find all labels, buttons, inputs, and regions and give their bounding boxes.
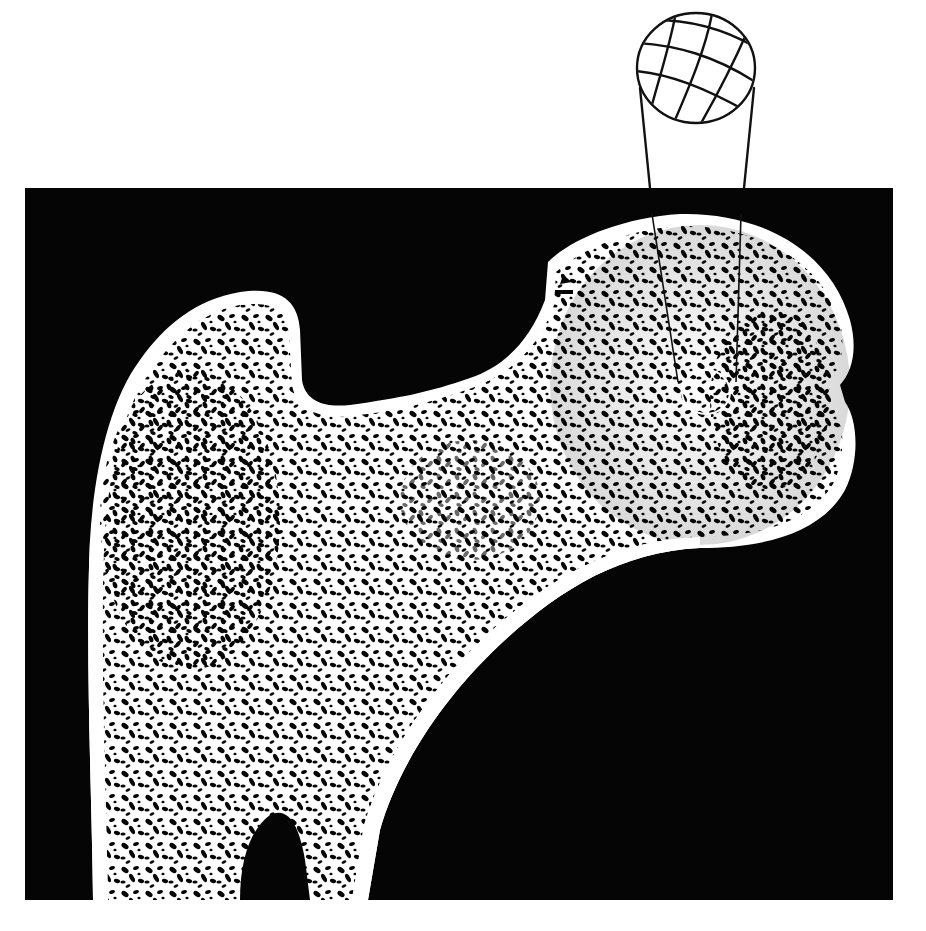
dense-region-trochanter <box>100 370 280 670</box>
femur-section-figure <box>0 0 926 931</box>
dense-region-neck <box>400 440 540 560</box>
